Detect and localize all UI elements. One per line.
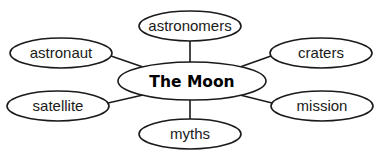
node-satellite: satellite xyxy=(7,91,109,121)
center-node: The Moon xyxy=(118,62,266,100)
node-label: satellite xyxy=(33,97,84,114)
concept-map: astronomers astronaut craters satellite … xyxy=(0,0,384,161)
node-mission: mission xyxy=(271,91,373,121)
connector-satellite xyxy=(108,95,143,103)
center-label: The Moon xyxy=(149,73,234,91)
node-label: myths xyxy=(170,125,210,142)
node-label: craters xyxy=(298,44,344,61)
node-label: astronaut xyxy=(30,44,93,61)
node-astronaut: astronaut xyxy=(10,38,112,68)
connector-astronaut xyxy=(111,56,143,67)
connector-craters xyxy=(240,56,271,67)
node-label: mission xyxy=(297,97,348,114)
node-craters: craters xyxy=(270,38,372,68)
node-label: astronomers xyxy=(148,17,231,34)
node-myths: myths xyxy=(139,119,241,149)
connector-mission xyxy=(240,95,272,103)
node-astronomers: astronomers xyxy=(139,11,241,41)
